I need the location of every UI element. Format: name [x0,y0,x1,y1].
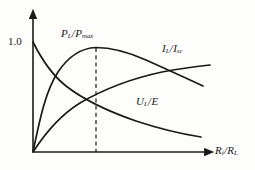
voltage-label-numerator: U [136,95,144,107]
current-label-denominator-sub: sc [177,47,183,54]
curve-label-voltage: UL/E [136,96,158,108]
y-axis-tick-label: 1.0 [8,35,22,47]
curve-power [33,48,203,153]
xaxis-label-numerator: R [215,144,222,156]
curve-current [33,65,210,152]
power-label-numerator-sub: L [68,32,72,39]
curve-voltage [33,42,201,137]
curve-label-power: PL/Pmax [61,28,93,40]
xaxis-label-denominator-sub: L [234,149,238,156]
voltage-label-denominator: E [151,95,158,107]
curve-label-current: IL/Isc [162,43,183,55]
power-label-numerator: P [61,27,68,39]
x-axis-label: Ri/RL [215,145,238,157]
power-label-denominator: P [75,27,82,39]
figure-container: 1.0 PL/Pmax IL/Isc UL/E Ri/RL [0,0,255,170]
power-label-denominator-sub: max [82,32,93,39]
